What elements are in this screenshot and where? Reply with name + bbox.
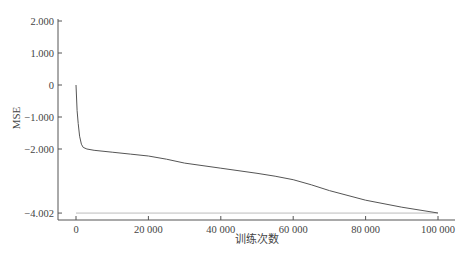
x-axis-title: 训练次数 (235, 232, 279, 245)
y-tick-label: 2.000 (30, 16, 54, 27)
x-tick-label: 100 000 (421, 224, 455, 235)
y-tick-label: −2.000 (24, 144, 54, 155)
x-tick-label: 40 000 (206, 224, 235, 235)
y-axis: 2.0001.0000−1.000−2.000−4.002 (24, 16, 62, 220)
x-tick-label: 60 000 (279, 224, 308, 235)
y-tick-label: −1.000 (24, 112, 54, 123)
x-tick-label: 20 000 (134, 224, 163, 235)
mse-curve (76, 85, 438, 213)
y-tick-label: −4.002 (24, 208, 54, 219)
mse-training-chart: 2.0001.0000−1.000−2.000−4.002 020 00040 … (0, 0, 470, 259)
x-tick-label: 0 (73, 224, 78, 235)
y-tick-label: 0 (49, 80, 54, 91)
y-tick-label: 1.000 (30, 48, 54, 59)
y-axis-title: MSE (10, 106, 22, 129)
x-tick-label: 80 000 (351, 224, 380, 235)
